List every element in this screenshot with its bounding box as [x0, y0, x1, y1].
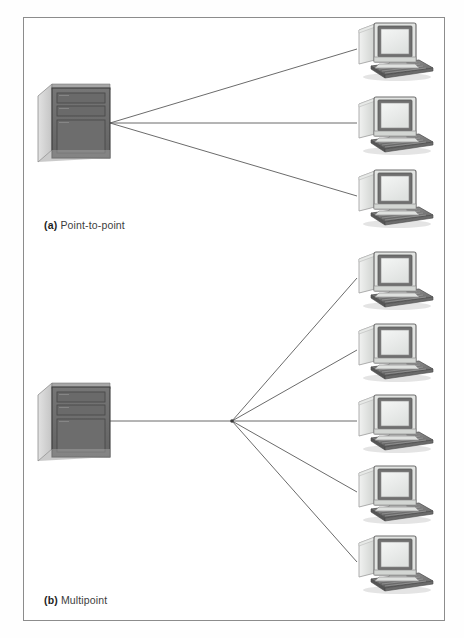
caption-point-to-point: (a) Point-to-point — [44, 219, 125, 231]
caption-tag-a: (a) — [44, 219, 57, 231]
caption-text-b: Multipoint — [61, 594, 107, 606]
server-tower-icon-b[interactable] — [38, 383, 110, 461]
network-topology-diagram — [0, 0, 464, 638]
caption-tag-b: (b) — [44, 594, 58, 606]
caption-multipoint: (b) Multipoint — [44, 594, 107, 606]
multipoint-junction-node — [230, 419, 234, 423]
figure-container: (a) Point-to-point (b) Multipoint — [0, 0, 464, 638]
server-tower-icon-a[interactable] — [38, 84, 110, 162]
caption-text-a: Point-to-point — [60, 219, 125, 231]
